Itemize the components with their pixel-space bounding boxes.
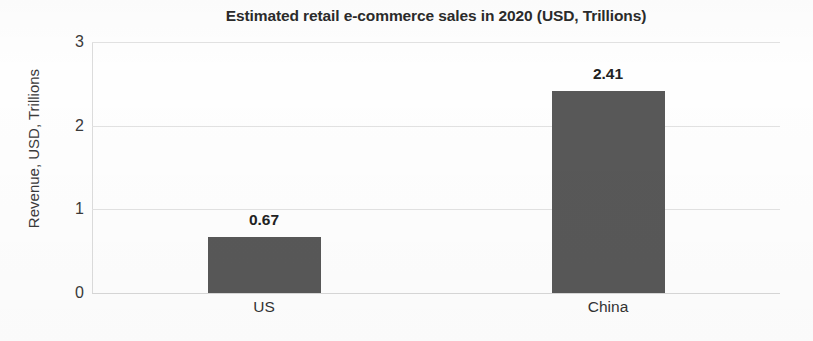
y-tick-label-2: 2 [58,117,84,135]
bar-china[interactable] [552,91,665,293]
y-tick-label-1: 1 [58,200,84,218]
gridline-1 [92,209,780,210]
bar-us[interactable] [208,237,321,293]
x-axis-category-labels: USChina [92,298,780,328]
category-label-us: US [194,298,334,316]
category-label-china: China [538,298,678,316]
gridline-0 [92,293,780,294]
bar-chart: Estimated retail e-commerce sales in 202… [0,0,813,341]
bar-value-label-china: 2.41 [548,65,668,83]
plot-area: 0.672.41 [92,42,780,293]
bar-value-label-us: 0.67 [204,211,324,229]
y-tick-label-0: 0 [58,284,84,302]
gridline-3 [92,42,780,43]
gridline-2 [92,126,780,127]
chart-title: Estimated retail e-commerce sales in 202… [92,7,780,25]
y-axis-title: Revenue, USD, Trillions [25,34,42,264]
y-axis-tick-labels: 0123 [56,42,84,293]
y-tick-label-3: 3 [58,33,84,51]
